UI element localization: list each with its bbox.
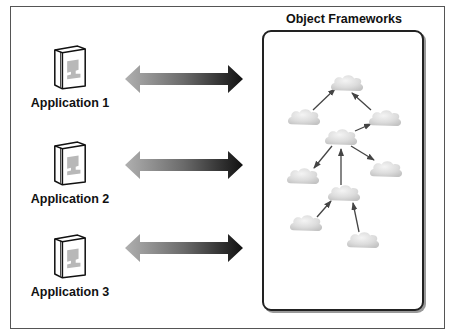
edge-right-to-top [352,93,371,110]
object-network-graph [0,0,452,335]
cloud-node-right-icon [369,110,401,126]
cloud-node-mid-left-icon [287,168,319,184]
cloud-node-bottom-right-icon [347,232,379,248]
cloud-node-bottom-left-icon [290,215,322,231]
edge-center-to-right [355,124,371,131]
cloud-node-center-icon [325,129,357,145]
edge-center-to-mid-left [314,146,332,168]
cloud-node-lower-center-icon [328,185,360,201]
edge-bottom-right-to-lower-center [353,203,359,232]
edge-left-to-top [313,89,335,110]
cloud-node-mid-right-icon [370,161,402,177]
cloud-node-top-icon [331,75,363,91]
edge-center-to-mid-right [351,146,374,160]
cloud-node-left-icon [288,109,320,125]
edge-bottom-left-to-lower-center [317,201,331,217]
